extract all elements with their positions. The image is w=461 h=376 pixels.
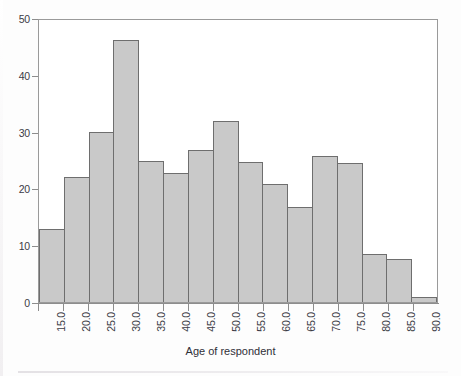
y-axis-tick xyxy=(32,303,38,304)
histogram-bar xyxy=(64,177,90,302)
x-axis-title: Age of respondent xyxy=(0,345,461,357)
histogram-bar xyxy=(188,150,214,302)
x-axis-tick xyxy=(363,304,364,311)
x-axis-tick xyxy=(63,304,64,311)
histogram-bar xyxy=(39,229,65,302)
y-axis-tick-label: 40 xyxy=(4,70,30,82)
x-axis-tick-label: 55.0 xyxy=(255,312,267,332)
x-axis-tick-label: 75.0 xyxy=(355,312,367,332)
histogram-bar xyxy=(312,156,338,302)
y-axis-tick-label: 20 xyxy=(4,183,30,195)
x-axis-tick-label: 65.0 xyxy=(305,312,317,332)
histogram-bar xyxy=(213,121,239,302)
y-axis-tick-label: 0 xyxy=(4,297,30,309)
x-axis-tick xyxy=(163,304,164,311)
histogram-bar xyxy=(411,297,437,302)
x-axis-tick xyxy=(38,304,39,311)
histogram-bar xyxy=(287,207,313,302)
y-axis-tick xyxy=(32,246,38,247)
x-axis-tick-label: 80.0 xyxy=(380,312,392,332)
x-axis-tick-label: 85.0 xyxy=(405,312,417,332)
y-axis-tick-label: 10 xyxy=(4,240,30,252)
x-axis-tick xyxy=(413,304,414,311)
y-axis-tick xyxy=(32,19,38,20)
x-axis-tick-label: 60.0 xyxy=(280,312,292,332)
histogram-bar xyxy=(337,163,363,302)
y-axis-tick xyxy=(32,189,38,190)
histogram-bar xyxy=(138,161,164,302)
plot-area xyxy=(38,19,438,303)
histogram-bar xyxy=(238,162,264,302)
x-axis-tick-label: 70.0 xyxy=(330,312,342,332)
x-axis-tick xyxy=(88,304,89,311)
histogram-bar xyxy=(386,259,412,302)
y-axis-labels: 01020304050 xyxy=(0,0,30,376)
y-axis-tick xyxy=(32,76,38,77)
y-axis-tick-label: 30 xyxy=(4,127,30,139)
x-axis-tick-label: 50.0 xyxy=(230,312,242,332)
x-axis-tick xyxy=(388,304,389,311)
bars-container xyxy=(39,20,437,302)
x-axis-tick-label: 25.0 xyxy=(105,312,117,332)
histogram-figure: 01020304050 15.020.025.030.035.040.045.0… xyxy=(0,0,461,376)
histogram-bar xyxy=(262,184,288,302)
x-axis-tick xyxy=(138,304,139,311)
x-axis-tick-label: 90.0 xyxy=(430,312,442,332)
x-axis-tick-label: 15.0 xyxy=(55,312,67,332)
histogram-bar xyxy=(362,254,388,302)
x-axis-ticks xyxy=(38,304,438,311)
x-axis-tick xyxy=(113,304,114,311)
x-axis-tick-label: 45.0 xyxy=(205,312,217,332)
scan-artifact-left-edge xyxy=(0,0,3,376)
x-axis-tick xyxy=(263,304,264,311)
y-axis-tick-label: 50 xyxy=(4,13,30,25)
x-axis-tick xyxy=(313,304,314,311)
scan-artifact-line xyxy=(18,371,448,373)
x-axis-tick-label: 40.0 xyxy=(180,312,192,332)
x-axis-tick-label: 20.0 xyxy=(80,312,92,332)
histogram-bar xyxy=(163,173,189,303)
x-axis-tick xyxy=(238,304,239,311)
x-axis-tick-label: 30.0 xyxy=(130,312,142,332)
x-axis-tick xyxy=(338,304,339,311)
histogram-bar xyxy=(113,40,139,302)
x-axis-tick-label: 35.0 xyxy=(155,312,167,332)
y-axis-tick xyxy=(32,133,38,134)
x-axis-tick xyxy=(213,304,214,311)
histogram-bar xyxy=(89,132,115,302)
x-axis-tick xyxy=(188,304,189,311)
x-axis-tick xyxy=(288,304,289,311)
x-axis-labels: 15.020.025.030.035.040.045.050.055.060.0… xyxy=(38,312,438,348)
